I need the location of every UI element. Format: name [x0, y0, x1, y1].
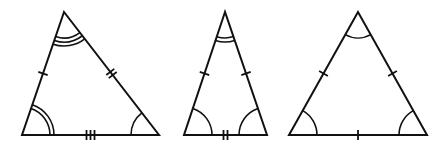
- isosceles-outline: [184, 12, 267, 135]
- equilateral-left-angle-arc: [303, 111, 317, 135]
- scalene-left-angle-arc: [32, 105, 54, 135]
- equilateral-triangle: [289, 12, 427, 140]
- isosceles-top-angle-arc: [216, 40, 235, 42]
- isosceles-right-angle-arc: [239, 109, 258, 135]
- scalene-triangle: [22, 12, 159, 140]
- isosceles-triangle: [184, 12, 267, 140]
- equilateral-right-angle-arc: [399, 111, 413, 135]
- equilateral-top-angle-arc: [345, 35, 370, 38]
- isosceles-left-angle-arc: [193, 108, 212, 135]
- scalene-left-angle-arc: [31, 109, 50, 135]
- scalene-top-angle-arc: [56, 33, 80, 38]
- triangles-diagram: [0, 0, 438, 151]
- isosceles-top-angle-arc: [217, 37, 234, 38]
- scalene-right-angle-arc: [131, 113, 142, 135]
